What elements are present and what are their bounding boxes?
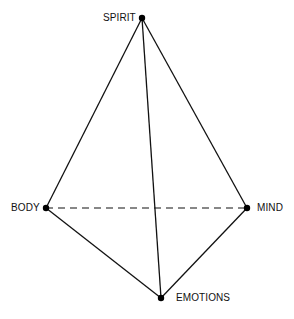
node-dot-mind [244, 205, 250, 211]
node-dot-body [43, 205, 49, 211]
diagram-graphic [0, 0, 294, 319]
node-dot-spirit [139, 15, 145, 21]
edge-body-emotions [46, 208, 161, 298]
edge-spirit-body [46, 18, 142, 208]
label-body: BODY [11, 203, 40, 213]
label-spirit: SPIRIT [103, 13, 136, 23]
label-mind: MIND [257, 203, 283, 213]
edge-spirit-emotions [142, 18, 161, 298]
node-dot-emotions [158, 295, 164, 301]
tetrahedron-diagram: SPIRIT BODY MIND EMOTIONS [0, 0, 294, 319]
label-emotions: EMOTIONS [176, 293, 230, 303]
edge-mind-emotions [161, 208, 247, 298]
edge-spirit-mind [142, 18, 247, 208]
